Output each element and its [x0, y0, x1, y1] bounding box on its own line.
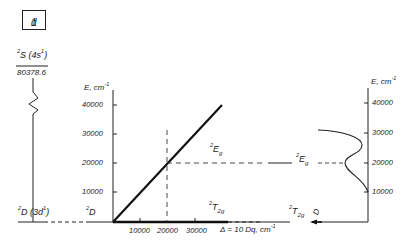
eg-right-label: 2Eg — [296, 155, 308, 164]
upper-level-term: 2S (4s1) — [17, 51, 47, 60]
t2g-label: 2T2g — [209, 203, 224, 212]
right-axis-label: E, cm-1 — [371, 78, 396, 86]
t2g-right-label: 2T2g — [289, 207, 304, 216]
eg-level-line — [113, 105, 222, 222]
zigzag-break-line — [29, 78, 38, 222]
right-tick-40000: 40000 — [372, 99, 393, 107]
x-tick-20000: 20000 — [157, 227, 178, 235]
right-tick-10000: 10000 — [372, 188, 393, 196]
diagram-canvas — [0, 0, 414, 246]
upper-level-energy: 80378.6 — [17, 69, 46, 77]
left-axis-label: E, cm-1 — [84, 84, 109, 92]
free-ion-term: 2D — [86, 208, 96, 217]
arrow-icon — [310, 220, 317, 225]
x-tick-10000: 10000 — [129, 227, 150, 235]
absorption-band-curve — [318, 130, 368, 192]
left-tick-20000: 20000 — [82, 159, 103, 167]
right-tick-20000: 20000 — [372, 159, 393, 167]
left-tick-10000: 10000 — [82, 188, 103, 196]
x-tick-30000: 30000 — [186, 227, 207, 235]
x-axis-label: Δ = 10 Dq, cm-1 — [220, 226, 276, 234]
right-tick-30000: 30000 — [372, 129, 393, 137]
left-tick-30000: 30000 — [82, 130, 103, 138]
ground-level-term: 2D (3d1) — [18, 208, 49, 217]
eg-label: 2Eg — [210, 145, 222, 154]
left-tick-40000: 40000 — [82, 101, 103, 109]
